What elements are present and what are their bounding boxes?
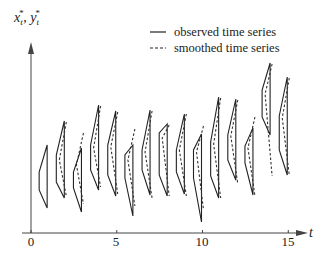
y-axis-arrow-icon	[28, 42, 34, 54]
observed-glyph	[194, 134, 202, 222]
smoothed-glyph	[76, 133, 83, 204]
smoothed-glyph	[111, 112, 118, 194]
x-tick-0: 0	[28, 234, 35, 250]
observed-glyph	[262, 63, 270, 135]
smoothed-glyph	[128, 129, 135, 206]
smoothed-glyph	[248, 117, 255, 196]
series-glyphs	[39, 63, 289, 222]
observed-glyph	[279, 77, 287, 175]
x-tick-10: 10	[196, 234, 209, 250]
observed-glyph	[142, 110, 150, 195]
x-axis-arrow-icon	[296, 230, 308, 236]
smoothed-glyph	[214, 98, 221, 198]
smoothed-glyph	[94, 106, 101, 187]
observed-glyph	[56, 121, 64, 198]
observed-glyph	[228, 99, 236, 180]
x-tick-5: 5	[113, 234, 120, 250]
y-axis	[28, 42, 34, 233]
smoothed-glyph	[145, 111, 152, 198]
smoothed-glyph	[59, 122, 66, 196]
observed-glyph	[159, 124, 167, 196]
smoothed-glyph	[265, 64, 272, 176]
observed-glyph	[245, 128, 253, 195]
observed-glyph	[39, 145, 47, 208]
smoothed-glyph	[282, 78, 289, 175]
observed-glyph	[91, 105, 99, 190]
x-tick-15: 15	[282, 234, 295, 250]
x-axis-label: t	[309, 225, 313, 241]
x-axis	[22, 230, 308, 236]
observed-glyph	[73, 148, 81, 212]
chart-plot-area	[0, 0, 323, 260]
